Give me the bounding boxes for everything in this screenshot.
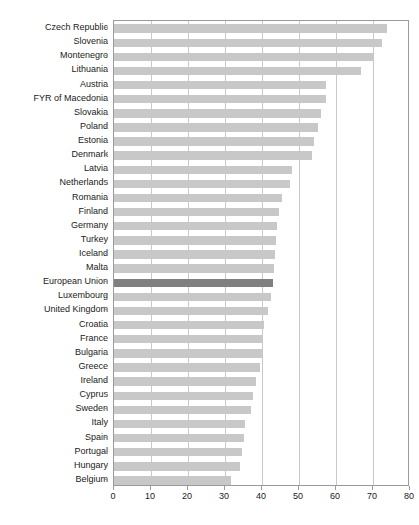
bar-germany[interactable] — [114, 222, 277, 230]
bar-croatia[interactable] — [114, 321, 264, 329]
bar-spain[interactable] — [114, 434, 244, 442]
category-tick — [105, 267, 108, 268]
bar-italy[interactable] — [114, 420, 245, 428]
category-tick — [105, 168, 108, 169]
bar-lithuania[interactable] — [114, 67, 361, 75]
bar-greece[interactable] — [114, 363, 260, 371]
category-label-czech-republic: Czech Republic — [0, 22, 108, 32]
x-tick-label-50: 50 — [293, 491, 303, 502]
category-tick — [105, 479, 108, 480]
bar-sweden[interactable] — [114, 406, 251, 414]
category-tick — [105, 408, 108, 409]
category-label-croatia: Croatia — [0, 319, 108, 329]
x-tick-mark-10 — [150, 486, 151, 490]
category-label-slovenia: Slovenia — [0, 36, 108, 46]
bar-united-kingdom[interactable] — [114, 307, 268, 315]
bar-malta[interactable] — [114, 264, 274, 272]
category-tick — [105, 437, 108, 438]
bar-czech-republic[interactable] — [114, 24, 387, 32]
x-tick-mark-40 — [261, 486, 262, 490]
bar-latvia[interactable] — [114, 166, 292, 174]
category-label-sweden: Sweden — [0, 403, 108, 413]
x-tick-label-0: 0 — [110, 491, 115, 502]
bar-ireland[interactable] — [114, 377, 256, 385]
category-label-ireland: Ireland — [0, 375, 108, 385]
category-tick — [105, 295, 108, 296]
category-label-european-union: European Union — [0, 276, 108, 286]
category-tick — [105, 324, 108, 325]
category-label-greece: Greece — [0, 361, 108, 371]
category-tick — [105, 182, 108, 183]
bar-estonia[interactable] — [114, 137, 314, 145]
category-label-slovakia: Slovakia — [0, 107, 108, 117]
category-tick — [105, 422, 108, 423]
category-tick — [105, 366, 108, 367]
category-tick — [105, 239, 108, 240]
category-label-italy: Italy — [0, 417, 108, 427]
category-label-iceland: Iceland — [0, 248, 108, 258]
category-tick — [105, 154, 108, 155]
x-tick-mark-20 — [187, 486, 188, 490]
x-tick-mark-60 — [335, 486, 336, 490]
bar-chart: Czech RepublicSloveniaMontenegroLithuani… — [0, 0, 419, 525]
x-tick-mark-0 — [113, 486, 114, 490]
category-label-turkey: Turkey — [0, 234, 108, 244]
bar-poland[interactable] — [114, 123, 318, 131]
bar-france[interactable] — [114, 335, 263, 343]
category-label-estonia: Estonia — [0, 135, 108, 145]
plot-area — [113, 20, 409, 486]
bar-european-union[interactable] — [114, 279, 273, 287]
bar-hungary[interactable] — [114, 462, 240, 470]
bar-portugal[interactable] — [114, 448, 242, 456]
category-tick — [105, 84, 108, 85]
bar-denmark[interactable] — [114, 151, 312, 159]
category-label-latvia: Latvia — [0, 163, 108, 173]
category-tick — [105, 394, 108, 395]
bar-bulgaria[interactable] — [114, 349, 262, 357]
bar-fyr-of-macedonia[interactable] — [114, 95, 326, 103]
category-label-montenegro: Montenegro — [0, 50, 108, 60]
x-tick-label-60: 60 — [330, 491, 340, 502]
x-tick-label-20: 20 — [182, 491, 192, 502]
bar-montenegro[interactable] — [114, 53, 373, 61]
category-axis: Czech RepublicSloveniaMontenegroLithuani… — [0, 20, 108, 486]
bar-netherlands[interactable] — [114, 180, 290, 188]
category-label-finland: Finland — [0, 206, 108, 216]
bar-romania[interactable] — [114, 194, 282, 202]
x-tick-mark-50 — [298, 486, 299, 490]
category-tick — [105, 225, 108, 226]
category-tick — [105, 281, 108, 282]
category-tick — [105, 69, 108, 70]
category-tick — [105, 451, 108, 452]
bar-luxembourg[interactable] — [114, 293, 271, 301]
category-label-portugal: Portugal — [0, 446, 108, 456]
bar-belgium[interactable] — [114, 476, 231, 484]
category-label-bulgaria: Bulgaria — [0, 347, 108, 357]
category-label-fyr-of-macedonia: FYR of Macedonia — [0, 93, 108, 103]
category-tick — [105, 41, 108, 42]
x-tick-mark-30 — [224, 486, 225, 490]
bar-slovakia[interactable] — [114, 109, 321, 117]
category-label-austria: Austria — [0, 79, 108, 89]
category-label-denmark: Denmark — [0, 149, 108, 159]
category-tick — [105, 126, 108, 127]
category-label-france: France — [0, 333, 108, 343]
bar-turkey[interactable] — [114, 236, 276, 244]
category-label-lithuania: Lithuania — [0, 64, 108, 74]
bar-iceland[interactable] — [114, 250, 275, 258]
category-label-belgium: Belgium — [0, 474, 108, 484]
bars-container — [114, 21, 408, 485]
category-tick — [105, 465, 108, 466]
bar-finland[interactable] — [114, 208, 279, 216]
category-tick — [105, 253, 108, 254]
bar-slovenia[interactable] — [114, 39, 382, 47]
category-tick — [105, 338, 108, 339]
category-tick — [105, 352, 108, 353]
category-label-germany: Germany — [0, 220, 108, 230]
category-label-luxembourg: Luxembourg — [0, 290, 108, 300]
bar-austria[interactable] — [114, 81, 326, 89]
x-tick-label-40: 40 — [256, 491, 266, 502]
category-label-hungary: Hungary — [0, 460, 108, 470]
x-tick-mark-70 — [372, 486, 373, 490]
bar-cyprus[interactable] — [114, 392, 253, 400]
